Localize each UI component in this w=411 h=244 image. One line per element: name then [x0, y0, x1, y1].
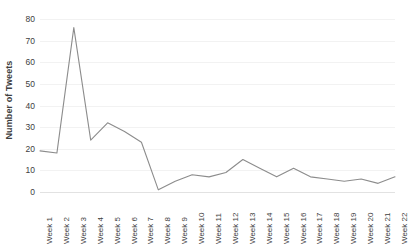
y-tick-label-0: 0	[30, 188, 35, 197]
y-tick-label-30: 30	[26, 123, 35, 132]
x-tick-label-week-15: Week 15	[281, 194, 293, 244]
x-tick-label-week-8: Week 8	[162, 194, 174, 244]
x-tick-label-week-11: Week 11	[213, 194, 225, 244]
x-tick-label-week-10: Week 10	[196, 194, 208, 244]
y-tick-label-40: 40	[26, 101, 35, 110]
x-tick-label-week-12: Week 12	[230, 194, 242, 244]
y-tick-label-50: 50	[26, 80, 35, 89]
x-tick-label-week-19: Week 19	[348, 194, 360, 244]
y-axis-title-label: Number of Tweets	[4, 61, 14, 140]
x-tick-label-week-14: Week 14	[264, 194, 276, 244]
y-tick-label-70: 70	[26, 36, 35, 45]
plot-area	[40, 19, 395, 192]
y-tick-label-20: 20	[26, 145, 35, 154]
x-tick-label-week-9: Week 9	[179, 194, 191, 244]
y-axis-tick-labels: 01020304050607080	[18, 0, 38, 244]
x-tick-label-week-20: Week 20	[365, 194, 377, 244]
x-tick-label-week-22: Week 22	[399, 194, 411, 244]
x-tick-label-week-17: Week 17	[314, 194, 326, 244]
x-tick-label-week-1: Week 1	[44, 194, 56, 244]
gridline-0	[40, 192, 395, 193]
x-axis-tick-labels: Week 1Week 2Week 3Week 4Week 5Week 6Week…	[40, 194, 395, 244]
x-tick-label-week-6: Week 6	[129, 194, 141, 244]
y-tick-label-80: 80	[26, 15, 35, 24]
x-tick-label-week-7: Week 7	[145, 194, 157, 244]
series-line-chart	[40, 19, 395, 192]
y-axis-title: Number of Tweets	[0, 0, 18, 200]
x-tick-label-week-5: Week 5	[112, 194, 124, 244]
x-tick-label-week-21: Week 21	[382, 194, 394, 244]
x-tick-label-week-13: Week 13	[247, 194, 259, 244]
x-tick-label-week-18: Week 18	[331, 194, 343, 244]
x-tick-label-week-2: Week 2	[61, 194, 73, 244]
x-tick-label-week-16: Week 16	[298, 194, 310, 244]
y-tick-label-60: 60	[26, 58, 35, 67]
y-tick-label-10: 10	[26, 166, 35, 175]
series-line-tweets	[40, 28, 395, 190]
x-tick-label-week-3: Week 3	[78, 194, 90, 244]
x-tick-label-week-4: Week 4	[95, 194, 107, 244]
